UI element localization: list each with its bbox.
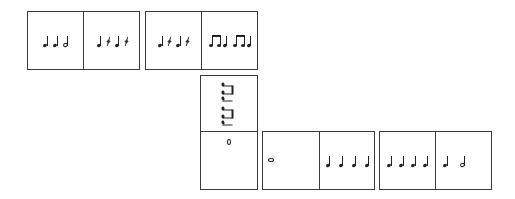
beamed-eighth-notes-icon xyxy=(222,82,234,94)
rhythm-quarter-quarter-half xyxy=(43,33,68,47)
tile-half-left xyxy=(380,132,435,188)
domino-tile-2 xyxy=(145,11,258,70)
domino-tile-1 xyxy=(27,11,140,70)
half-note-icon xyxy=(63,35,68,47)
quarter-rest-icon xyxy=(186,37,189,46)
quarter-note-icon xyxy=(411,155,416,167)
half-note-icon xyxy=(460,155,465,167)
tile-half-right xyxy=(203,12,257,68)
domino-tile-3 xyxy=(200,75,258,190)
tile-divider xyxy=(201,12,202,69)
tile-half-bottom xyxy=(201,133,256,151)
tile-divider xyxy=(83,12,84,69)
quarter-rest-icon xyxy=(107,37,110,46)
rhythm-four-quarters xyxy=(387,153,428,167)
whole-note-icon xyxy=(268,158,274,162)
rhythm-eighths-quarter-eighths-quarter-rotated xyxy=(222,82,236,125)
quarter-note-icon xyxy=(247,35,252,47)
quarter-note-icon xyxy=(326,155,331,167)
tile-half-left xyxy=(28,12,83,68)
whole-note-icon xyxy=(227,139,231,145)
rhythm-four-quarters xyxy=(326,153,370,167)
beamed-eighth-notes-icon xyxy=(209,35,221,47)
quarter-note-icon xyxy=(365,155,370,167)
quarter-note-icon xyxy=(176,35,181,47)
quarter-note-icon xyxy=(352,155,357,167)
quarter-note-icon xyxy=(443,155,448,167)
rhythm-quarter-half xyxy=(443,153,465,167)
rhythm-quarter-rest-quarter-rest xyxy=(158,33,189,47)
domino-tile-4 xyxy=(262,131,375,190)
quarter-rest-icon xyxy=(168,37,171,46)
tile-half-right xyxy=(321,132,374,188)
tile-half-top xyxy=(201,76,256,131)
quarter-note-icon xyxy=(97,35,102,47)
tile-divider xyxy=(319,132,320,189)
rhythm-quarter-rest-quarter-rest xyxy=(97,33,128,47)
quarter-note-icon xyxy=(339,155,344,167)
tile-half-right xyxy=(437,132,491,188)
quarter-note-icon xyxy=(223,35,228,47)
tile-half-right xyxy=(85,12,139,68)
quarter-note-icon xyxy=(423,155,428,167)
quarter-note-icon xyxy=(115,35,120,47)
tile-half-left xyxy=(263,132,319,188)
quarter-note-icon xyxy=(222,96,234,101)
quarter-note-icon xyxy=(43,35,48,47)
quarter-note-icon xyxy=(399,155,404,167)
beamed-eighth-notes-icon xyxy=(233,35,245,47)
quarter-note-icon xyxy=(387,155,392,167)
tile-half-left xyxy=(146,12,201,68)
quarter-note-icon xyxy=(158,35,163,47)
tile-divider xyxy=(201,131,257,132)
domino-tile-5 xyxy=(379,131,492,190)
tile-divider xyxy=(435,132,436,189)
quarter-note-icon xyxy=(222,120,234,125)
rhythm-eighths-quarter-eighths-quarter xyxy=(209,33,252,47)
quarter-rest-icon xyxy=(125,37,128,46)
quarter-note-icon xyxy=(53,35,58,47)
beamed-eighth-notes-icon xyxy=(222,106,234,118)
